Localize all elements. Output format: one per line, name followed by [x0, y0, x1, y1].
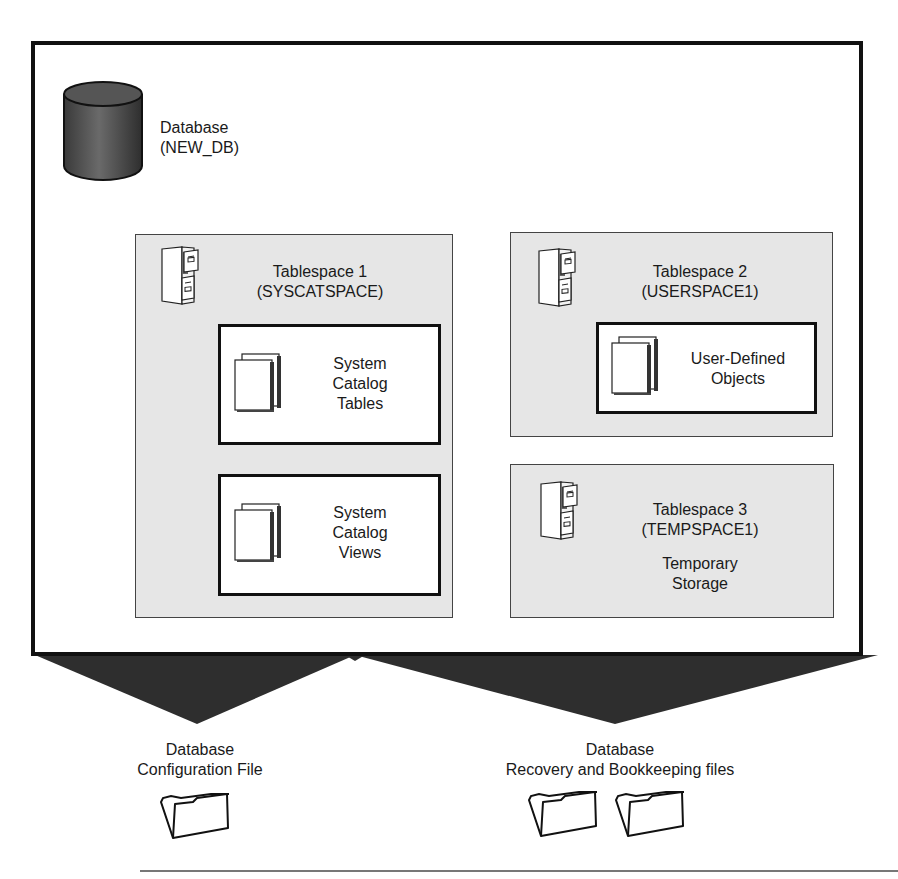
folder-icon — [527, 788, 599, 840]
tablespace-2-title: Tablespace 2 (USERSPACE1) — [610, 262, 790, 302]
folder-icon — [159, 790, 231, 842]
bottom-rule — [140, 870, 898, 872]
user-defined-objects-label: User-Defined Objects — [668, 349, 808, 389]
config-file-label: Database Configuration File — [110, 740, 290, 780]
file-cabinet-icon — [537, 248, 577, 308]
database-cylinder-icon — [61, 80, 145, 184]
system-catalog-tables-label: System Catalog Tables — [300, 354, 420, 414]
documents-icon — [233, 502, 283, 564]
recovery-files-label: Database Recovery and Bookkeeping files — [460, 740, 780, 780]
file-cabinet-icon — [160, 246, 200, 306]
connector-to-config-file — [35, 655, 355, 724]
file-cabinet-icon — [539, 481, 579, 541]
system-catalog-views-label: System Catalog Views — [300, 503, 420, 563]
documents-icon — [610, 335, 660, 397]
tablespace-3-title: Tablespace 3 (TEMPSPACE1) — [610, 500, 790, 540]
connector-to-recovery-files — [355, 655, 878, 724]
tablespace-3-description: Temporary Storage — [630, 554, 770, 594]
database-label: Database (NEW_DB) — [160, 118, 239, 158]
tablespace-1-title: Tablespace 1 (SYSCATSPACE) — [230, 262, 410, 302]
documents-icon — [233, 352, 283, 414]
folder-icon — [614, 788, 686, 840]
